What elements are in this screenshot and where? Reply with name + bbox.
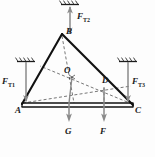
cevian-from-A <box>23 86 131 103</box>
support-right <box>118 58 138 62</box>
support-top <box>60 1 80 5</box>
figure-canvas: B A C O D FT2 FT1 FT3 G F <box>0 0 155 157</box>
force-label-G: G <box>65 127 72 136</box>
triangle-frame <box>22 34 134 107</box>
force-arrow-G <box>66 77 72 122</box>
vertex-label-D: D <box>102 76 109 85</box>
internal-dashed-lines <box>23 36 132 104</box>
cevian-from-C <box>40 66 132 104</box>
vertex-label-C: C <box>135 106 141 115</box>
force-label-FT1: FT1 <box>2 77 15 88</box>
member-AB <box>22 34 62 104</box>
vertex-label-B: B <box>66 27 72 36</box>
force-label-F: F <box>100 127 106 136</box>
vertex-label-O: O <box>64 66 71 75</box>
support-left <box>16 58 36 62</box>
force-label-FT3: FT3 <box>132 77 145 88</box>
vertex-label-A: A <box>15 106 21 115</box>
force-arrow-FT1 <box>23 62 29 103</box>
force-label-FT2: FT2 <box>77 12 90 23</box>
force-arrow-FT3 <box>125 62 131 103</box>
